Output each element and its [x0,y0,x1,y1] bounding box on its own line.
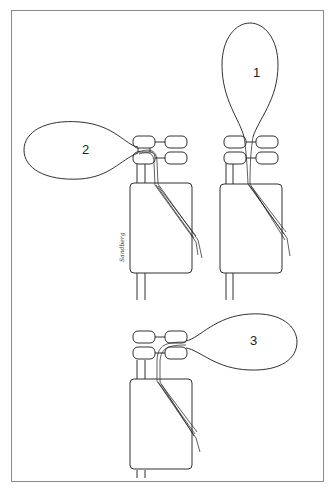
diagram-canvas [0,0,332,490]
label-figure-3: 3 [250,334,257,347]
figure-2 [24,122,202,300]
artist-signature: Sandberg [118,233,125,263]
figure-3 [130,314,297,478]
label-figure-1: 1 [253,66,260,79]
label-figure-2: 2 [82,143,89,156]
